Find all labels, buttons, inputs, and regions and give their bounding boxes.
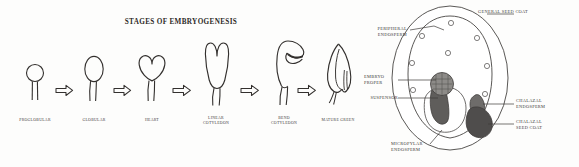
stage-art-heart xyxy=(136,53,168,105)
stage-art-globular xyxy=(80,55,108,105)
label-peripheral-endosperm: PERIPHERAL ENDOSPERM xyxy=(363,26,407,38)
stage-art-bend-cotyledon xyxy=(268,38,308,108)
stages-panel: STAGES OF EMBRYOGENESIS PROGLOBULAR GLO xyxy=(0,0,362,167)
label-chalazal-endosperm: CHALAZAL ENDOSPERM xyxy=(516,98,545,110)
stage-label-linear-cotyledon: LINEAR COTYLEDON xyxy=(184,116,248,127)
seed-diagram-panel: GENERAL SEED COAT PERIPHERAL ENDOSPERM E… xyxy=(362,0,579,167)
stage-art-proglobular xyxy=(22,62,48,104)
label-embryo-proper: EMBRYO PROPER xyxy=(364,74,384,86)
figure-title: STAGES OF EMBRYOGENESIS xyxy=(0,18,362,26)
stage-art-mature-green xyxy=(322,40,358,108)
stage-label-heart: HEART xyxy=(120,118,184,123)
label-chalazal-seed-coat: CHALAZAL SEED COAT xyxy=(516,119,542,131)
arrow-right-icon-2 xyxy=(113,84,132,97)
arrow-right-icon-1 xyxy=(55,84,74,97)
stage-label-proglobular: PROGLOBULAR xyxy=(3,118,67,123)
arrow-right-icon-5 xyxy=(297,84,317,97)
stage-art-linear-cotyledon xyxy=(200,40,234,108)
label-suspensor: SUSPENSOR xyxy=(362,95,398,101)
label-micropylar-endosperm: MICROPYLAR ENDOSPERM xyxy=(391,141,423,153)
embryogenesis-figure: STAGES OF EMBRYOGENESIS PROGLOBULAR GLO xyxy=(0,0,579,167)
arrow-right-icon-4 xyxy=(240,84,260,97)
arrow-right-icon-3 xyxy=(172,84,192,97)
label-general-seed-coat: GENERAL SEED COAT xyxy=(478,9,528,15)
stage-label-mature-green: MATURE GREEN xyxy=(306,118,370,123)
stage-label-globular: GLOBULAR xyxy=(62,118,126,123)
